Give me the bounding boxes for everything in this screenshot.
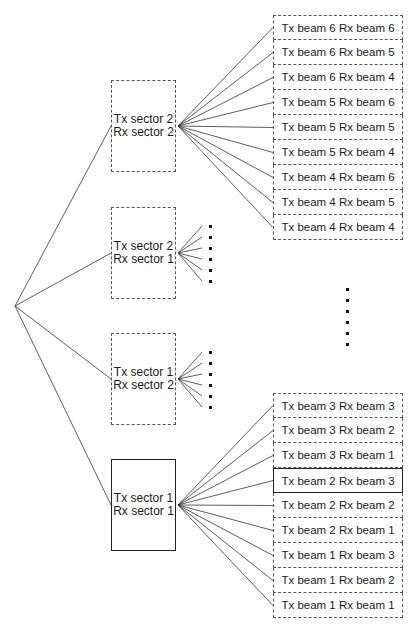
beam-pair-node: Tx beam 6 Rx beam 6: [273, 15, 403, 40]
beam-pair-node: Tx beam 1 Rx beam 3: [273, 543, 403, 568]
sector-label: Rx sector 2: [113, 126, 174, 139]
ellipsis-dot: [209, 280, 212, 283]
sector-node: Tx sector 1Rx sector 1: [111, 459, 176, 551]
ellipsis-dot: [209, 395, 212, 398]
beam-pair-node: Tx beam 4 Rx beam 6: [273, 165, 403, 190]
beam-pair-node: Tx beam 2 Rx beam 3: [273, 468, 403, 493]
ellipsis-dot: [346, 288, 349, 291]
sector-node: Tx sector 2Rx sector 1: [111, 207, 176, 299]
ellipsis-dot: [346, 343, 349, 346]
beam-pair-node: Tx beam 6 Rx beam 4: [273, 65, 403, 90]
beam-pair-node: Tx beam 1 Rx beam 2: [273, 568, 403, 593]
beam-pair-node: Tx beam 3 Rx beam 2: [273, 418, 403, 443]
ellipsis-dot: [209, 362, 212, 365]
sector-node: Tx sector 2Rx sector 2: [111, 80, 176, 172]
ellipsis-dot: [209, 351, 212, 354]
sector-label: Rx sector 2: [113, 379, 174, 392]
ellipsis-dot: [209, 269, 212, 272]
ellipsis-dot: [209, 225, 212, 228]
sector-label: Rx sector 1: [113, 253, 174, 266]
sector-node: Tx sector 1Rx sector 2: [111, 333, 176, 425]
sector-label: Rx sector 1: [113, 505, 174, 518]
beam-pair-node: Tx beam 5 Rx beam 6: [273, 90, 403, 115]
ellipsis-dot: [209, 406, 212, 409]
beam-pair-node: Tx beam 6 Rx beam 5: [273, 40, 403, 65]
beam-pair-node: Tx beam 5 Rx beam 4: [273, 140, 403, 165]
ellipsis-dot: [209, 373, 212, 376]
beam-pair-node: Tx beam 4 Rx beam 4: [273, 215, 403, 240]
beam-pair-node: Tx beam 3 Rx beam 3: [273, 393, 403, 418]
beam-pair-list: Tx beam 3 Rx beam 3Tx beam 3 Rx beam 2Tx…: [273, 393, 403, 618]
ellipsis-dot: [209, 384, 212, 387]
beam-pair-node: Tx beam 3 Rx beam 1: [273, 443, 403, 468]
ellipsis-dot: [209, 236, 212, 239]
beam-pair-node: Tx beam 5 Rx beam 5: [273, 115, 403, 140]
ellipsis-dot: [209, 258, 212, 261]
beam-pair-node: Tx beam 4 Rx beam 5: [273, 190, 403, 215]
beam-pair-list: Tx beam 6 Rx beam 6Tx beam 6 Rx beam 5Tx…: [273, 15, 403, 240]
ellipsis-dot: [346, 310, 349, 313]
ellipsis-dot: [346, 332, 349, 335]
beam-pair-node: Tx beam 2 Rx beam 1: [273, 518, 403, 543]
beam-pair-node: Tx beam 1 Rx beam 1: [273, 593, 403, 618]
ellipsis-dot: [346, 321, 349, 324]
beam-pair-node: Tx beam 2 Rx beam 2: [273, 493, 403, 518]
ellipsis-dot: [209, 247, 212, 250]
ellipsis-dot: [346, 299, 349, 302]
